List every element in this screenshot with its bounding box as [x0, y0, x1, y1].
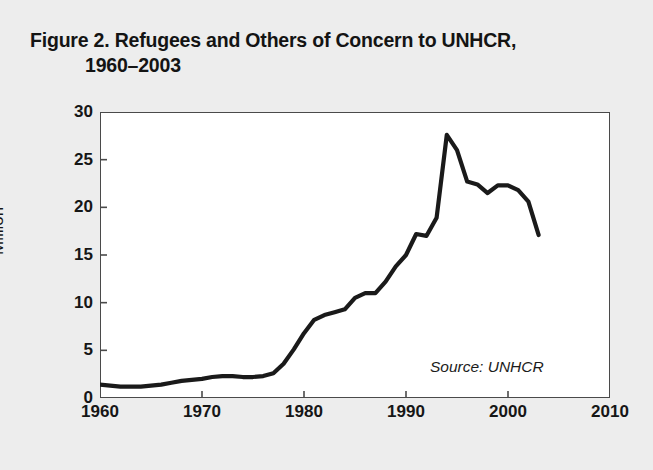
tick-marks-group [100, 112, 508, 398]
y-axis-tick-label: 15 [3, 245, 93, 265]
data-series-line [100, 135, 539, 387]
y-axis-labels: 051015202530 [0, 0, 93, 470]
x-axis-tick-label: 1980 [259, 402, 349, 422]
y-axis-tick-label: 10 [3, 293, 93, 313]
y-axis-tick-label: 30 [3, 102, 93, 122]
y-axis-tick-label: 5 [3, 340, 93, 360]
x-axis-tick-label: 2010 [565, 402, 653, 422]
x-axis-tick-label: 2000 [463, 402, 553, 422]
x-axis-tick-label: 1990 [361, 402, 451, 422]
x-axis-tick-label: 1960 [55, 402, 145, 422]
plot-wrapper: 051015202530 Million 1960197019801990200… [0, 0, 653, 470]
x-axis-tick-label: 1970 [157, 402, 247, 422]
y-axis-tick-label: 25 [3, 150, 93, 170]
source-annotation: Source: UNHCR [430, 358, 544, 376]
y-axis-tick-label: 20 [3, 197, 93, 217]
figure-container: Figure 2. Refugees and Others of Concern… [0, 0, 653, 470]
line-chart-svg [100, 112, 610, 398]
y-axis-title: Million [0, 207, 8, 255]
